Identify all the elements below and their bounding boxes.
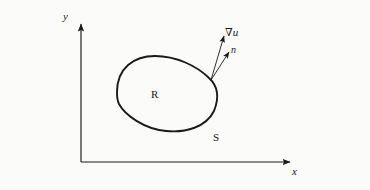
- y-axis-label: y: [63, 11, 68, 22]
- region-boundary-curve: [117, 56, 217, 131]
- gradient-vector-label: ∇u: [225, 27, 238, 38]
- nabla-icon: ∇: [225, 26, 233, 38]
- surface-label: S: [213, 132, 219, 143]
- normal-vector-arrow: [211, 52, 229, 80]
- gradient-vector-arrow: [211, 36, 224, 80]
- diagram-canvas: y x R S ∇u n: [0, 0, 370, 190]
- gradient-variable: u: [233, 26, 239, 38]
- x-axis-label: x: [292, 166, 297, 177]
- region-label: R: [151, 89, 158, 100]
- normal-vector-label: n: [231, 45, 236, 55]
- diagram-vector-graphics: [0, 0, 370, 190]
